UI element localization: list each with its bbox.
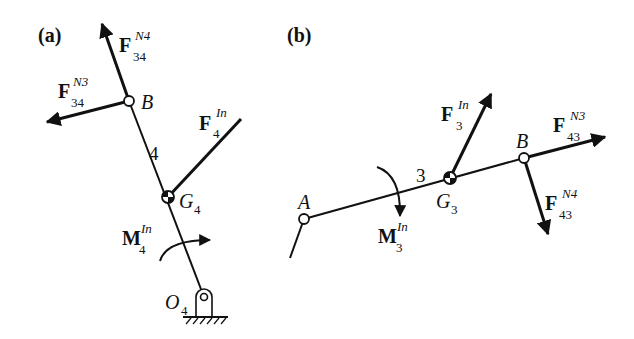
free-body-diagram: (a) 4 F N4 34 F N3 34 B F In 4 G 4 M <box>0 0 634 339</box>
moment-arrow-M3In <box>377 167 400 216</box>
force-sup-F34N3: N3 <box>72 74 89 89</box>
joint-A-label: A <box>296 191 311 213</box>
force-sub-F34N3: 34 <box>71 95 85 110</box>
panel-b-label: (b) <box>287 24 311 47</box>
point-G3-label: G <box>436 190 451 212</box>
panel-b: (b) 3 A F In 3 G 3 M In 3 F N3 43 <box>287 24 605 258</box>
force-symbol-F34N4: F <box>119 34 131 56</box>
center-of-mass-G3-icon <box>444 172 456 184</box>
joint-B-b <box>519 153 529 163</box>
force-symbol-F43N3: F <box>553 114 565 136</box>
force-sub-F43N3: 43 <box>567 129 580 144</box>
point-G3-sub: 3 <box>451 202 458 217</box>
force-symbol-F34N3: F <box>58 80 70 102</box>
force-sup-F3In: In <box>457 97 469 112</box>
moment-sup-M4In: In <box>140 221 152 236</box>
force-sup-F4In: In <box>215 105 227 120</box>
moment-symbol-M3In: M <box>378 225 397 247</box>
moment-sub-M4In: 4 <box>139 242 146 257</box>
center-of-mass-G4-icon <box>162 191 174 203</box>
point-O4-label: O <box>165 291 179 313</box>
moment-sub-M3In: 3 <box>396 240 403 255</box>
force-symbol-F4In: F <box>199 112 211 134</box>
point-O4-sub: 4 <box>181 303 188 318</box>
force-sup-F34N4: N4 <box>134 28 151 43</box>
moment-sup-M3In: In <box>396 219 408 234</box>
joint-B-a-label: B <box>141 91 153 113</box>
joint-B-a <box>124 96 134 106</box>
force-sup-F43N4: N4 <box>561 186 578 201</box>
joint-A <box>299 214 309 224</box>
point-G4-label: G <box>179 190 194 212</box>
panel-a-label: (a) <box>38 24 61 47</box>
adjacent-link-stub <box>290 219 304 258</box>
panel-a: (a) 4 F N4 34 F N3 34 B F In 4 G 4 M <box>38 24 241 324</box>
link-3 <box>304 158 524 219</box>
force-arrow-F3In <box>450 94 491 178</box>
ground-pivot-O4-icon <box>183 289 228 324</box>
force-sub-F43N4: 43 <box>559 207 572 222</box>
force-symbol-F3In: F <box>441 103 453 125</box>
joint-B-b-label: B <box>516 130 528 152</box>
force-arrow-F34N3 <box>47 101 129 122</box>
point-G4-sub: 4 <box>194 202 201 217</box>
moment-arrow-M4In <box>160 240 210 261</box>
force-sub-F34N4: 34 <box>133 49 147 64</box>
force-sup-F43N3: N3 <box>569 108 586 123</box>
force-sub-F4In: 4 <box>213 126 220 141</box>
link-4-number: 4 <box>149 143 159 164</box>
force-symbol-F43N4: F <box>545 192 557 214</box>
force-arrow-F43N3 <box>524 137 605 158</box>
force-sub-F3In: 3 <box>456 118 463 133</box>
link-3-number: 3 <box>416 165 426 186</box>
